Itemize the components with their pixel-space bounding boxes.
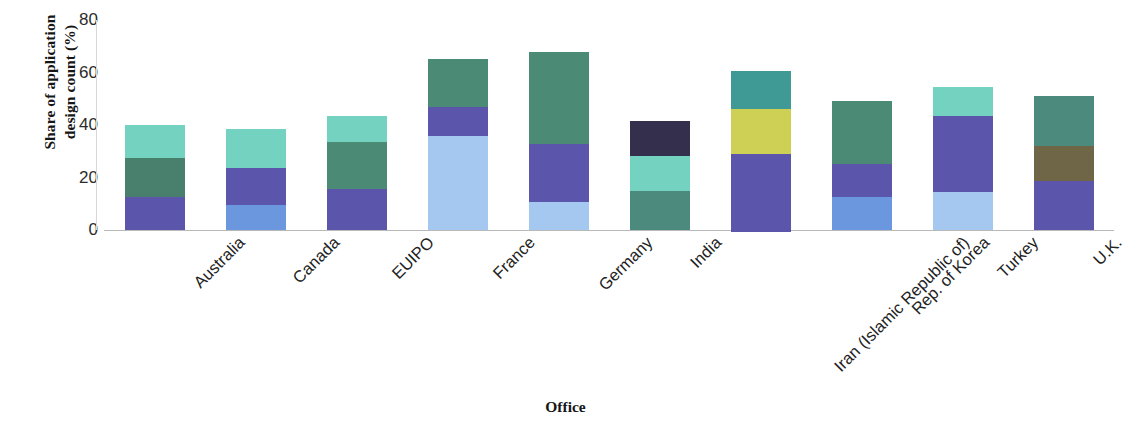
bar-segment[interactable]: [529, 202, 589, 230]
y-axis-tick-labels: 020406080: [58, 0, 98, 428]
x-tick-label: EUIPO: [388, 233, 438, 283]
bar-segment[interactable]: [226, 205, 286, 230]
x-tick-label: India: [686, 233, 725, 272]
bar-segment[interactable]: [731, 154, 791, 232]
bar-euipo[interactable]: [327, 116, 387, 230]
bar-segment[interactable]: [428, 107, 488, 136]
x-tick-label: Turkey: [993, 233, 1042, 282]
bar-turkey[interactable]: [933, 87, 993, 230]
y-tick-0: 0: [58, 220, 98, 240]
bar-segment[interactable]: [327, 189, 387, 230]
bar-france[interactable]: [428, 59, 488, 230]
bar-segment[interactable]: [226, 129, 286, 168]
bar-segment[interactable]: [832, 101, 892, 163]
bar-segment[interactable]: [125, 125, 185, 158]
bar-rep-of-korea[interactable]: [832, 101, 892, 230]
bar-australia[interactable]: [125, 125, 185, 230]
x-tick-label: U.K.: [1089, 233, 1125, 269]
x-tick-label: Iran (Islamic Republic of): [830, 233, 972, 375]
bar-segment[interactable]: [125, 197, 185, 230]
bar-segment[interactable]: [731, 71, 791, 109]
bar-segment[interactable]: [529, 144, 589, 202]
y-tick-40: 40: [58, 115, 98, 135]
bar-segment[interactable]: [630, 156, 690, 191]
x-axis-line: [104, 230, 1114, 231]
bar-segment[interactable]: [428, 59, 488, 107]
bar-iran-islamic-republic-of[interactable]: [731, 71, 791, 230]
bar-u-k[interactable]: [1034, 96, 1094, 230]
x-axis-category-labels: AustraliaCanadaEUIPOFranceGermanyIndiaIr…: [104, 233, 1114, 383]
bar-segment[interactable]: [1034, 96, 1094, 146]
bar-segment[interactable]: [731, 109, 791, 154]
x-tick-label: Australia: [189, 233, 248, 292]
bar-segment[interactable]: [630, 191, 690, 230]
bar-segment[interactable]: [1034, 181, 1094, 230]
x-tick-label: France: [489, 233, 539, 283]
bar-segment[interactable]: [933, 116, 993, 192]
bar-segment[interactable]: [1034, 146, 1094, 181]
bar-india[interactable]: [630, 121, 690, 230]
bar-segment[interactable]: [327, 142, 387, 190]
stacked-bar-chart: Share of application design count (%) 02…: [0, 0, 1131, 428]
y-tick-20: 20: [58, 168, 98, 188]
bar-segment[interactable]: [832, 197, 892, 230]
bar-segment[interactable]: [933, 192, 993, 230]
y-axis-title-line-1: Share of application: [40, 0, 60, 197]
bar-canada[interactable]: [226, 129, 286, 230]
x-tick-label: Canada: [288, 233, 342, 287]
plot-area: [104, 20, 1114, 230]
bar-segment[interactable]: [832, 164, 892, 197]
x-axis-title: Office: [0, 398, 1131, 416]
bar-segment[interactable]: [630, 121, 690, 156]
bar-germany[interactable]: [529, 52, 589, 231]
y-tick-60: 60: [58, 63, 98, 83]
bar-segment[interactable]: [226, 168, 286, 205]
bar-segment[interactable]: [428, 136, 488, 230]
y-tick-80: 80: [58, 10, 98, 30]
x-tick-label: Germany: [594, 233, 655, 294]
y-axis-line: [96, 20, 97, 230]
bar-segment[interactable]: [933, 87, 993, 116]
bar-segment[interactable]: [327, 116, 387, 142]
bar-segment[interactable]: [125, 158, 185, 196]
bar-segment[interactable]: [529, 52, 589, 144]
